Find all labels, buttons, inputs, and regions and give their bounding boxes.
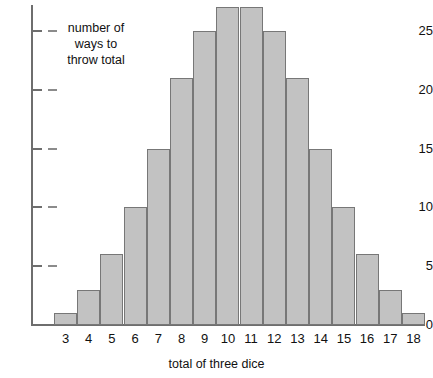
- x-tick-label: 17: [379, 332, 402, 346]
- bar-slot: [356, 5, 379, 325]
- histogram-bar: [216, 7, 239, 325]
- histogram-bar: [309, 149, 332, 325]
- y-axis-annotation: number of ways to throw total: [50, 20, 142, 68]
- bar-slot: [216, 5, 239, 325]
- histogram-bar: [332, 207, 355, 325]
- x-tick-label: 5: [100, 332, 123, 346]
- histogram-bar: [54, 313, 77, 325]
- bar-slot: [332, 5, 355, 325]
- histogram-bar: [402, 313, 425, 325]
- x-tick-label: 13: [286, 332, 309, 346]
- y-tick-mark: [33, 265, 42, 267]
- bar-slot: [309, 5, 332, 325]
- bar-slot: [402, 5, 425, 325]
- y-tick-mark: [33, 89, 42, 91]
- x-tick-label: 12: [263, 332, 286, 346]
- x-tick-label: 7: [147, 332, 170, 346]
- histogram-bar: [356, 254, 379, 325]
- histogram-bar: [147, 149, 170, 325]
- bar-slot: [170, 5, 193, 325]
- chart-page: 0510152025 3456789101112131415161718 num…: [0, 0, 433, 378]
- bar-slot: [240, 5, 263, 325]
- histogram-bar: [193, 31, 216, 325]
- histogram-bar: [263, 31, 286, 325]
- histogram-bar: [170, 78, 193, 325]
- x-tick-label: 4: [77, 332, 100, 346]
- x-axis-title: total of three dice: [0, 357, 433, 372]
- bar-slot: [286, 5, 309, 325]
- histogram-bar: [379, 290, 402, 325]
- x-tick-label: 15: [332, 332, 355, 346]
- histogram-bar: [286, 78, 309, 325]
- histogram-bar: [100, 254, 123, 325]
- x-tick-label: 9: [193, 332, 216, 346]
- histogram-bar: [77, 290, 100, 325]
- histogram-plot-area: 0510152025 3456789101112131415161718 num…: [0, 0, 433, 378]
- x-tick-label: 6: [124, 332, 147, 346]
- y-tick-mark: [33, 30, 42, 32]
- bar-slot: [263, 5, 286, 325]
- bar-slot: [379, 5, 402, 325]
- x-tick-label: 16: [356, 332, 379, 346]
- x-tick-label: 18: [402, 332, 425, 346]
- x-tick-label: 14: [309, 332, 332, 346]
- x-tick-label: 3: [54, 332, 77, 346]
- x-tick-label: 11: [240, 332, 263, 346]
- y-tick-mark: [33, 148, 42, 150]
- x-tick-label: 8: [170, 332, 193, 346]
- bar-slot: [147, 5, 170, 325]
- histogram-bar: [124, 207, 147, 325]
- y-tick-mark: [33, 324, 42, 326]
- x-axis-ticks: 3456789101112131415161718: [54, 332, 425, 348]
- histogram-bar: [240, 7, 263, 325]
- y-axis-line: [31, 5, 33, 326]
- x-tick-label: 10: [216, 332, 239, 346]
- y-tick-mark: [33, 206, 42, 208]
- bar-slot: [193, 5, 216, 325]
